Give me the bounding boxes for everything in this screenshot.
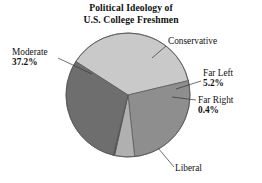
leader-line-liberal [158, 148, 174, 167]
pie-chart-figure: Political Ideology of U.S. College Fresh… [0, 0, 262, 183]
pie-label-far-right-name: Far Right [198, 95, 233, 105]
pie-label-moderate: Moderate 37.2% [12, 47, 48, 68]
pie-graphic [0, 0, 262, 183]
pie-label-far-right: Far Right 0.4% [198, 95, 233, 116]
pie-label-liberal-name: Liberal [175, 163, 202, 173]
pie-label-far-right-percent: 0.4% [198, 105, 233, 115]
pie-label-conservative: Conservative [168, 36, 217, 46]
pie-label-liberal: Liberal [175, 163, 202, 173]
pie-label-far-left-percent: 5.2% [203, 78, 233, 88]
pie-label-moderate-name: Moderate [12, 47, 48, 57]
pie-label-conservative-name: Conservative [168, 36, 217, 46]
pie-label-far-left-name: Far Left [203, 68, 233, 78]
pie-label-moderate-percent: 37.2% [12, 57, 48, 67]
pie-label-far-left: Far Left 5.2% [203, 68, 233, 89]
